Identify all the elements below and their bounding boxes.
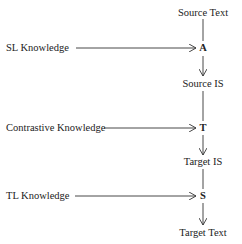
node-s: S bbox=[200, 190, 206, 202]
node-t: T bbox=[199, 122, 206, 134]
node-source-text: Source Text bbox=[178, 7, 228, 19]
node-target-is: Target IS bbox=[184, 156, 222, 168]
input-contrastive-knowledge: Contrastive Knowledge bbox=[6, 122, 105, 134]
node-target-text: Target Text bbox=[179, 227, 226, 239]
node-source-is: Source IS bbox=[182, 78, 223, 90]
input-tl-knowledge: TL Knowledge bbox=[6, 190, 69, 202]
input-sl-knowledge: SL Knowledge bbox=[6, 42, 69, 54]
node-a: A bbox=[199, 42, 207, 54]
